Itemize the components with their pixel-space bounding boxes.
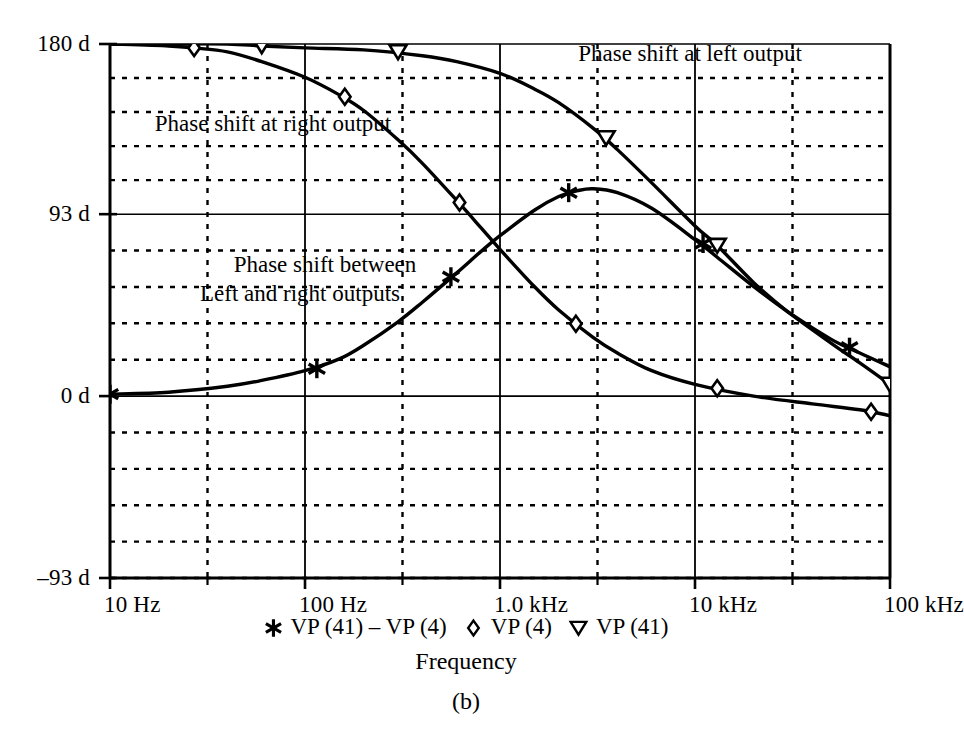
legend-label: VP (41) – VP (4)	[290, 614, 446, 640]
plot-annotation: Left and right outputs	[200, 280, 400, 309]
diamond-marker	[339, 89, 351, 105]
y-tick-label: 93 d	[0, 201, 90, 227]
asterisk-marker	[263, 618, 283, 638]
y-tick-label: –93 d	[0, 565, 90, 591]
plot-annotation: Phase shift between	[234, 251, 417, 280]
triangle-down-marker	[569, 618, 589, 638]
diamond-marker	[711, 380, 723, 396]
figure-caption: (b)	[452, 686, 480, 716]
chart-legend: VP (41) – VP (4)VP (4)VP (41)	[263, 614, 668, 640]
x-axis-title: Frequency	[415, 646, 516, 676]
triangle-down-marker	[882, 378, 899, 392]
legend-label: VP (41)	[596, 614, 669, 640]
plot-annotation: Phase shift at right output	[155, 110, 391, 139]
legend-entry: VP (41) – VP (4)	[263, 614, 446, 640]
diamond-marker	[188, 40, 200, 56]
y-tick-label: 0 d	[0, 383, 90, 409]
x-tick-label: 10 Hz	[104, 592, 161, 618]
x-tick-label: 10 kHz	[689, 592, 757, 618]
x-tick-label: 100 kHz	[884, 592, 964, 618]
plot-annotation: Phase shift at left output	[578, 40, 802, 69]
y-tick-label: 180 d	[0, 31, 90, 57]
legend-label: VP (4)	[491, 614, 552, 640]
diamond-marker	[464, 618, 484, 638]
diamond-marker	[865, 404, 877, 420]
legend-entry: VP (4)	[464, 614, 552, 640]
legend-entry: VP (41)	[569, 614, 669, 640]
